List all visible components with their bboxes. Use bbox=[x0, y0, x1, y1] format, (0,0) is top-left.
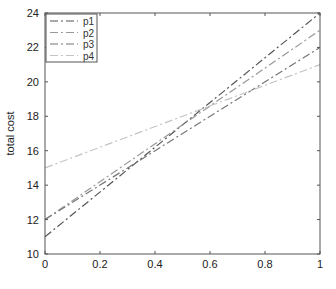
y-tick-label: 14 bbox=[27, 179, 39, 191]
legend-label-p3: p3 bbox=[83, 39, 95, 50]
line-chart: 00.20.40.60.81 1012141618202224 total co… bbox=[0, 0, 336, 289]
y-tick-label: 20 bbox=[27, 76, 39, 88]
series-line-p3 bbox=[45, 47, 320, 219]
x-tick-label: 0.8 bbox=[257, 258, 272, 270]
legend: p1p2p3p4 bbox=[46, 14, 97, 62]
y-tick-label: 16 bbox=[27, 145, 39, 157]
x-tick-label: 0.4 bbox=[147, 258, 162, 270]
legend-label-p2: p2 bbox=[83, 28, 95, 39]
y-tick-label: 24 bbox=[27, 7, 39, 19]
legend-label-p4: p4 bbox=[83, 51, 95, 62]
legend-label-p1: p1 bbox=[83, 16, 95, 27]
y-tick-label: 12 bbox=[27, 214, 39, 226]
x-tick-label: 1 bbox=[317, 258, 323, 270]
series-line-p4 bbox=[45, 65, 320, 168]
y-axis-label: total cost bbox=[4, 111, 16, 155]
y-tick-label: 18 bbox=[27, 110, 39, 122]
x-tick-label: 0 bbox=[42, 258, 48, 270]
y-tick-label: 22 bbox=[27, 41, 39, 53]
y-tick-label: 10 bbox=[27, 248, 39, 260]
x-tick-label: 0.2 bbox=[92, 258, 107, 270]
x-tick-label: 0.6 bbox=[202, 258, 217, 270]
